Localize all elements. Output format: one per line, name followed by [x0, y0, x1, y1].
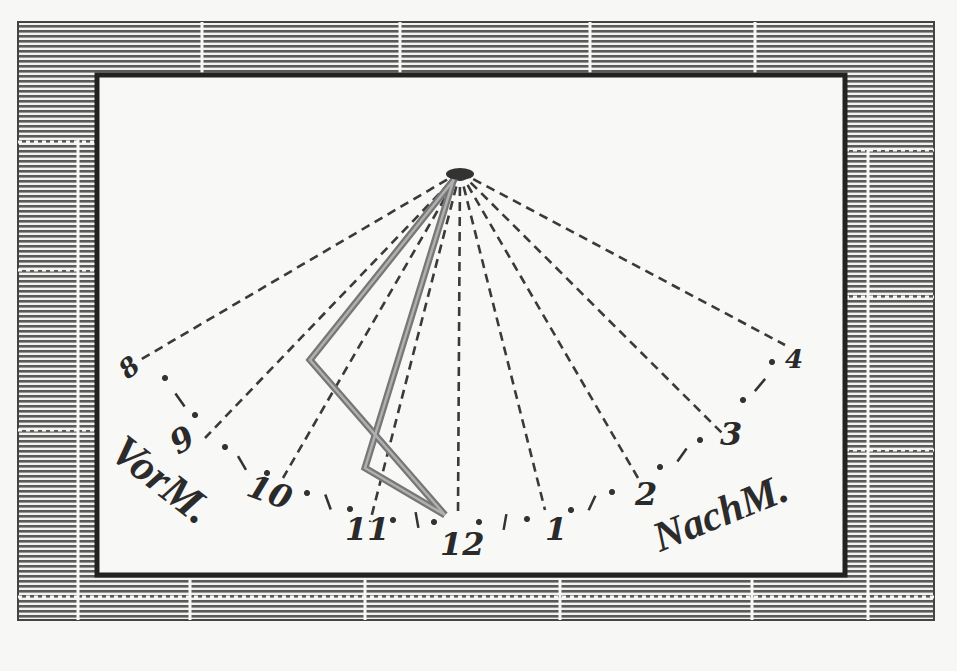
- hour-label-4: 4: [785, 344, 803, 374]
- tick-dot: [609, 489, 614, 494]
- hour-label-12: 12: [440, 525, 485, 563]
- tick-dot: [222, 444, 227, 449]
- tick-dot: [524, 516, 529, 521]
- hour-label-1: 1: [545, 510, 567, 548]
- tick-dot: [192, 412, 197, 417]
- gnomon-apex: [446, 168, 474, 180]
- hour-label-2: 2: [634, 475, 657, 513]
- tick-dot: [568, 507, 573, 512]
- tick-dot: [697, 437, 702, 442]
- sundial-figure: 891011121234 VorM. NachM.: [0, 0, 957, 671]
- tick-dot: [740, 397, 745, 402]
- hour-label-11: 11: [345, 510, 390, 548]
- tick-dot: [657, 464, 662, 469]
- hour-label-3: 3: [720, 415, 742, 453]
- tick-dot: [431, 519, 436, 524]
- tick-dot: [476, 519, 481, 524]
- tick-dot: [769, 359, 774, 364]
- tick-dot: [390, 517, 395, 522]
- tick-dot: [304, 490, 309, 495]
- tick-dot: [162, 375, 167, 380]
